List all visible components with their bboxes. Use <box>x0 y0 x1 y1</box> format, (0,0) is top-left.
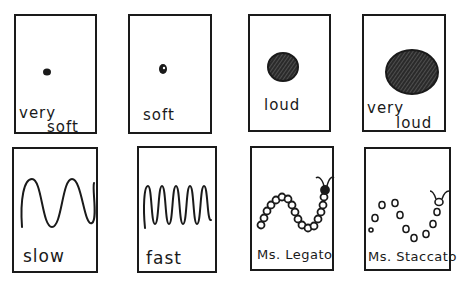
card-ms-legato: Ms. Legato <box>250 146 334 271</box>
medium-scribbled-circle-icon <box>250 16 333 134</box>
card-soft: soft <box>128 14 212 134</box>
card-slow: slow <box>12 147 98 273</box>
card-very-loud: very loud <box>362 14 446 132</box>
card-label: Ms. Staccato <box>368 250 457 263</box>
card-label: Ms. Legato <box>257 248 333 261</box>
card-label: slow <box>23 248 65 265</box>
card-label: soft <box>143 108 175 123</box>
card-label: loud <box>264 98 300 113</box>
card-fast: fast <box>137 146 217 273</box>
card-ms-staccato: Ms. Staccato <box>364 147 451 271</box>
card-label: fast <box>146 250 182 267</box>
card-very-soft: very soft <box>14 14 97 134</box>
card-loud: loud <box>248 14 331 132</box>
card-label-line2: loud <box>396 116 432 131</box>
card-label-line2: soft <box>47 120 79 135</box>
